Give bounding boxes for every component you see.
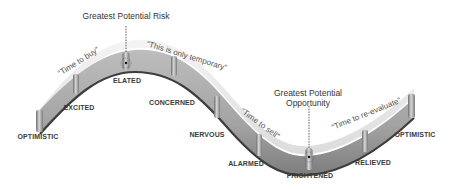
post-relieved <box>362 130 368 152</box>
emotion-label-nervous: NERVOUS <box>189 131 224 138</box>
post-concerned <box>171 56 177 76</box>
emotion-label-elated: ELATED <box>113 77 141 84</box>
opportunity-callout-line2: Opportunity <box>286 98 331 108</box>
post-excited <box>73 74 79 94</box>
opportunity-callout-line1: Greatest Potential <box>274 88 342 98</box>
post-optimistic-left <box>36 110 43 132</box>
emotion-label-optimistic-start: OPTIMISTIC <box>17 133 58 140</box>
emotion-label-excited: EXCITED <box>63 104 94 111</box>
opportunity-marker <box>304 106 314 170</box>
track-top-surface <box>38 40 414 154</box>
emotion-label-alarmed: ALARMED <box>228 160 264 167</box>
post-nervous <box>214 96 220 118</box>
emotion-label-optimistic-end: OPTIMISTIC <box>394 131 435 138</box>
emotion-label-frightened: FRIGHTENED <box>287 172 334 179</box>
post-alarmed <box>256 134 262 156</box>
emotion-label-concerned: CONCERNED <box>149 99 195 106</box>
emotion-cycle-diagram: Greatest Potential Risk Greatest Potenti… <box>0 0 454 189</box>
post-optimistic-right <box>408 94 415 118</box>
emotion-label-relieved: RELIEVED <box>355 159 391 166</box>
risk-callout: Greatest Potential Risk <box>83 11 171 21</box>
